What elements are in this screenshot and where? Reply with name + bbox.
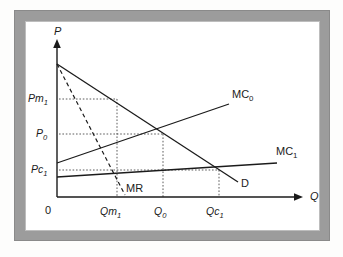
x-tick-qm1-sub: 1	[117, 211, 121, 220]
curve-label-mc1-sub: 1	[293, 151, 297, 160]
curve-label-mc1: MC1	[276, 146, 298, 160]
y-tick-p0: P0	[36, 128, 47, 142]
diagram-page: P Q 0 Pm1 P0 Pc1 Qm1 Q0 Qc1 MC0 MC1 D MR	[0, 0, 343, 257]
x-tick-q0: Q0	[154, 206, 166, 220]
y-axis-label: P	[54, 26, 61, 37]
x-axis-arrow	[294, 193, 303, 201]
x-tick-qm1: Qm1	[100, 206, 121, 220]
y-axis-arrow	[53, 39, 61, 48]
x-axis-label: Q	[310, 191, 319, 202]
curve-label-mc1-main: MC	[276, 145, 293, 157]
curve-label-mc0-sub: 0	[249, 94, 253, 103]
x-tick-q0-main: Q	[154, 205, 162, 217]
curve-label-demand-main: D	[241, 177, 249, 189]
origin-label: 0	[45, 205, 51, 216]
y-tick-pm1: Pm1	[28, 93, 48, 107]
x-tick-qm1-main: Qm	[100, 205, 117, 217]
y-tick-p0-main: P	[36, 127, 43, 139]
y-tick-pc1-main: Pc	[31, 163, 43, 175]
x-tick-q0-sub: 0	[162, 211, 166, 220]
y-tick-pm1-sub: 1	[44, 98, 48, 107]
curve-label-demand: D	[241, 178, 249, 189]
curve-label-mc0-main: MC	[232, 88, 249, 100]
curve-label-mr-main: MR	[126, 182, 143, 194]
curve-label-mr: MR	[126, 183, 143, 194]
y-tick-pc1-sub: 1	[43, 169, 47, 178]
y-tick-p0-sub: 0	[43, 133, 47, 142]
x-tick-qc1: Qc1	[206, 206, 224, 220]
plot-area	[0, 0, 343, 257]
x-tick-qc1-main: Qc	[206, 205, 219, 217]
demand-curve	[57, 64, 238, 182]
curve-label-mc0: MC0	[232, 89, 254, 103]
marginal-cost-0-curve	[57, 104, 229, 163]
y-tick-pm1-main: Pm	[28, 92, 44, 104]
x-tick-qc1-sub: 1	[219, 211, 223, 220]
y-tick-pc1: Pc1	[31, 164, 47, 178]
